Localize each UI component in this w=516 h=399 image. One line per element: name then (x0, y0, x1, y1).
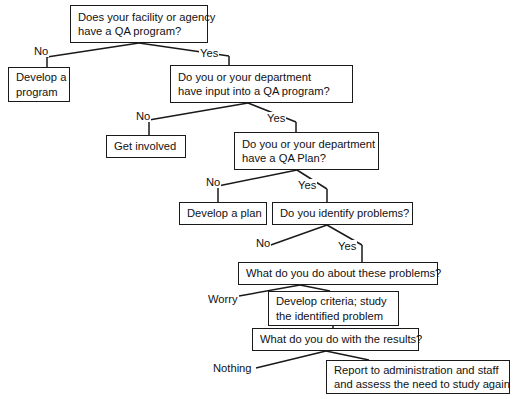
edge-q4-no (268, 225, 327, 246)
node-text-line: What do you do about these problems? (246, 266, 441, 280)
question-identify-problems: Do you identify problems? (272, 202, 413, 225)
node-text-line: Develop criteria; study (276, 294, 387, 308)
node-text-line: Do you or your department (242, 137, 375, 151)
node-text-line: program (16, 85, 58, 99)
node-text-line: have input into a QA program? (178, 84, 330, 98)
node-text-line: Develop a (16, 70, 66, 84)
edge-label-nothing: Nothing (212, 362, 253, 374)
node-text-line: What do you do with the results? (260, 332, 422, 346)
node-text-line: Get involved (114, 139, 176, 153)
question-with-the-results: What do you do with the results? (252, 328, 419, 351)
question-about-these-problems: What do you do about these problems? (238, 262, 438, 285)
question-department-qa-plan: Do you or your departmenthave a QA Plan? (234, 132, 379, 170)
edge-label-no-1: No (33, 45, 49, 57)
edge-label-no-4: No (255, 237, 271, 249)
edge-q6-nothing (256, 351, 326, 368)
edge-label-yes-4: Yes (337, 240, 357, 252)
action-report-to-administration: Report to administration and staffand as… (326, 360, 510, 394)
node-text-line: have a QA program? (78, 24, 181, 38)
question-facility-qa-program: Does your facility or agencyhave a QA pr… (70, 5, 208, 43)
edge-label-worry: Worry (207, 293, 239, 305)
edge-q6-report (326, 351, 369, 360)
flowchart-canvas: Does your facility or agencyhave a QA pr… (0, 0, 516, 399)
edge-label-no-3: No (205, 176, 221, 188)
edge-q2-no (149, 103, 248, 135)
edge-label-yes-1: Yes (199, 47, 219, 59)
edge-label-yes-2: Yes (266, 112, 286, 124)
node-text-line: Report to administration and staff (334, 363, 499, 377)
edge-q1-no (47, 43, 139, 67)
node-text-line: and assess the need to study again (334, 377, 510, 391)
action-develop-a-program: Develop aprogram (8, 67, 70, 102)
edge-label-yes-3: Yes (297, 179, 317, 191)
action-get-involved: Get involved (106, 135, 186, 158)
node-text-line: the identified problem (276, 309, 383, 323)
question-department-input: Do you or your departmenthave input into… (170, 65, 353, 103)
node-text-line: Do you or your department (178, 70, 311, 84)
node-text-line: Develop a plan (187, 206, 262, 220)
node-text-line: Do you identify problems? (280, 206, 409, 220)
edge-q3-no (218, 170, 297, 202)
action-develop-a-plan: Develop a plan (179, 202, 267, 225)
action-develop-criteria-study: Develop criteria; studythe identified pr… (268, 291, 399, 326)
node-text-line: have a QA Plan? (242, 151, 326, 165)
edge-label-no-2: No (135, 110, 151, 122)
node-text-line: Does your facility or agency (78, 10, 215, 24)
